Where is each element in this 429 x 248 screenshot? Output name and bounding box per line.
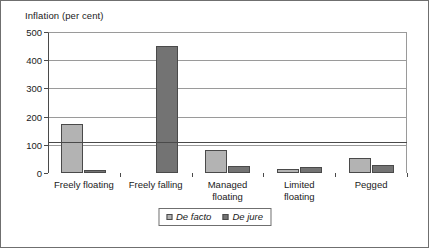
- chart-title: Inflation (per cent): [25, 10, 104, 21]
- bar-de-jure: [156, 46, 178, 173]
- plot-frame: [48, 32, 407, 173]
- x-tick-mark: [407, 173, 408, 177]
- gridline: [48, 117, 407, 118]
- y-axis-tick-label: 200: [26, 111, 42, 122]
- bar-de-facto: [349, 158, 371, 173]
- x-axis-category-label: Freely falling: [129, 179, 183, 191]
- gridline: [48, 145, 407, 146]
- x-axis-baseline: [48, 142, 407, 143]
- legend-label: De facto: [176, 211, 211, 222]
- chart-figure: Inflation (per cent) 0100200300400500 Fr…: [0, 0, 429, 248]
- x-tick-mark: [335, 173, 336, 177]
- y-axis-tick-label: 400: [26, 55, 42, 66]
- y-axis: 0100200300400500: [11, 32, 42, 173]
- plot-area: [48, 32, 407, 173]
- y-tick-mark: [44, 117, 48, 118]
- x-axis-category-label: Pegged: [355, 179, 388, 191]
- legend-entry: De facto: [166, 211, 211, 222]
- y-axis-tick-label: 100: [26, 139, 42, 150]
- x-tick-mark: [120, 173, 121, 177]
- legend-swatch-icon: [222, 214, 228, 220]
- y-axis-tick-label: 0: [37, 168, 42, 179]
- y-tick-mark: [44, 32, 48, 33]
- x-tick-mark: [192, 173, 193, 177]
- y-tick-mark: [44, 173, 48, 174]
- y-tick-mark: [44, 88, 48, 89]
- bar-de-jure: [372, 165, 394, 173]
- legend-entry: De jure: [222, 211, 263, 222]
- x-axis-category-label: Freely floating: [54, 179, 114, 191]
- x-axis-category-label: Managed floating: [208, 179, 248, 202]
- y-axis-tick-label: 500: [26, 27, 42, 38]
- x-tick-mark: [263, 173, 264, 177]
- gridline: [48, 60, 407, 61]
- y-tick-mark: [44, 60, 48, 61]
- bar-de-facto: [277, 169, 299, 173]
- bar-de-jure: [228, 166, 250, 173]
- legend-label: De jure: [232, 211, 263, 222]
- gridline: [48, 32, 407, 33]
- x-axis-category-label: Limited floating: [284, 179, 315, 202]
- bar-de-jure: [84, 170, 106, 173]
- bar-de-facto: [61, 124, 83, 173]
- chart-legend: De factoDe jure: [158, 208, 271, 226]
- gridline: [48, 88, 407, 89]
- y-axis-tick-label: 300: [26, 83, 42, 94]
- y-tick-mark: [44, 145, 48, 146]
- bar-de-jure: [300, 167, 322, 173]
- legend-swatch-icon: [166, 214, 172, 220]
- bar-de-facto: [205, 150, 227, 173]
